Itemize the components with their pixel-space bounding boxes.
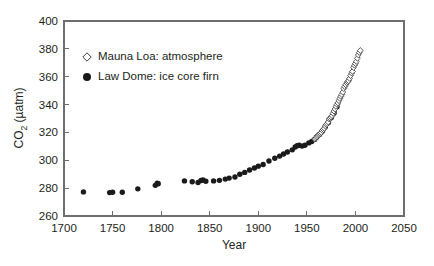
data-point-law-dome — [135, 186, 140, 191]
y-tick-label: 320 — [39, 126, 58, 138]
series-law-dome-points — [81, 104, 340, 195]
chart-legend: Mauna Loa: atmosphereLaw Dome: ice core … — [83, 50, 223, 82]
data-point-law-dome — [190, 179, 195, 184]
y-tick-label: 260 — [39, 210, 58, 222]
y-tick-label: 400 — [39, 15, 58, 27]
data-point-law-dome — [217, 178, 222, 183]
y-tick-label: 300 — [39, 154, 58, 166]
y-tick-label: 360 — [39, 71, 58, 83]
data-point-law-dome — [232, 174, 237, 179]
data-point-law-dome — [81, 189, 86, 194]
x-axis-title: Year — [222, 238, 246, 252]
data-point-law-dome — [211, 178, 216, 183]
data-point-law-dome — [260, 162, 265, 167]
x-tick-label: 1800 — [148, 222, 174, 234]
legend-label: Law Dome: ice core firn — [98, 70, 219, 82]
legend-label: Mauna Loa: atmosphere — [98, 50, 223, 62]
data-point-law-dome — [272, 156, 277, 161]
data-point-law-dome — [110, 190, 115, 195]
x-tick-label: 1950 — [294, 222, 320, 234]
svg-text:CO2 (µatm): CO2 (µatm) — [12, 88, 29, 149]
data-point-law-dome — [203, 178, 208, 183]
chart-canvas: 2602803003203403603804001700175018001850… — [0, 0, 434, 266]
data-point-law-dome — [256, 163, 261, 168]
legend-marker-filled-circle-icon — [83, 73, 91, 81]
y-axis-title-main: CO — [12, 130, 26, 148]
y-tick-label: 280 — [39, 182, 58, 194]
y-axis-title: CO2 (µatm) — [12, 88, 29, 149]
data-point-law-dome — [156, 181, 161, 186]
legend-marker-open-diamond-icon — [83, 53, 91, 61]
x-tick-label: 1850 — [197, 222, 223, 234]
series-mauna-loa-points — [312, 48, 363, 142]
data-point-law-dome — [120, 190, 125, 195]
data-point-law-dome — [285, 149, 290, 154]
data-point-law-dome — [242, 170, 247, 175]
y-tick-label: 380 — [39, 43, 58, 55]
data-point-law-dome — [182, 178, 187, 183]
y-axis-title-units: (µatm) — [12, 88, 26, 126]
x-tick-label: 2050 — [391, 222, 417, 234]
data-point-law-dome — [226, 175, 231, 180]
data-point-law-dome — [247, 167, 252, 172]
data-point-law-dome — [266, 158, 271, 163]
x-tick-label: 1700 — [51, 222, 77, 234]
x-tick-label: 2000 — [343, 222, 369, 234]
x-tick-label: 1900 — [245, 222, 271, 234]
co2-scatter-figure: 2602803003203403603804001700175018001850… — [0, 0, 434, 266]
data-point-law-dome — [237, 172, 242, 177]
x-tick-label: 1750 — [100, 222, 126, 234]
y-tick-label: 340 — [39, 99, 58, 111]
